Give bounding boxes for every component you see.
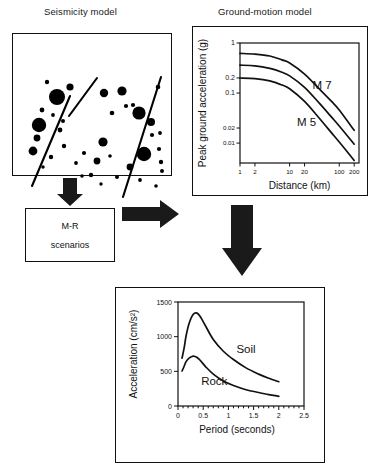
arrow-ground-motion-to-spectrum bbox=[222, 205, 262, 276]
flow-arrows bbox=[0, 0, 374, 475]
figure-canvas: Seismicity model Ground-motion model 10.… bbox=[0, 0, 374, 475]
arrow-scenarios-to-ground-motion bbox=[122, 200, 179, 228]
arrow-seismicity-to-scenarios bbox=[57, 178, 83, 206]
